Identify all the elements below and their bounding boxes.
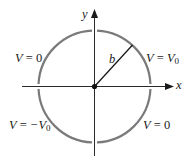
label-lower-right: V = 0	[143, 119, 170, 132]
label-var: V	[15, 51, 23, 65]
label-upper-right: V = V0	[146, 52, 179, 66]
label-lower-left: V = −V0	[9, 119, 51, 133]
label-value: 0	[36, 51, 42, 65]
arc-lower-right	[97, 89, 150, 142]
arc-upper-left	[39, 31, 92, 84]
label-upper-left: V = 0	[15, 52, 42, 65]
arc-lower-left	[39, 89, 92, 142]
diagram-graphics	[0, 0, 188, 161]
label-eq: =	[154, 51, 167, 65]
x-axis-arrow-icon	[165, 83, 174, 90]
origin-dot	[92, 84, 97, 89]
label-eq: =	[23, 51, 36, 65]
potential-diagram: y x b V = 0 V = V0 V = −V0 V = 0	[0, 0, 188, 161]
radius-label: b	[109, 53, 115, 66]
x-axis-label: x	[176, 79, 182, 92]
y-axis-label: y	[82, 8, 88, 21]
label-var: V	[143, 118, 151, 132]
label-value: −V	[30, 118, 46, 132]
y-axis-arrow-icon	[91, 9, 98, 18]
label-value: V	[167, 51, 175, 65]
label-eq: =	[17, 118, 30, 132]
label-subscript: 0	[175, 56, 180, 66]
arc-upper-right	[97, 31, 150, 84]
label-subscript: 0	[46, 123, 51, 133]
label-eq: =	[151, 118, 164, 132]
y-axis	[91, 9, 98, 156]
label-value: 0	[164, 118, 170, 132]
x-axis	[22, 83, 174, 90]
label-var: V	[9, 118, 17, 132]
label-var: V	[146, 51, 154, 65]
